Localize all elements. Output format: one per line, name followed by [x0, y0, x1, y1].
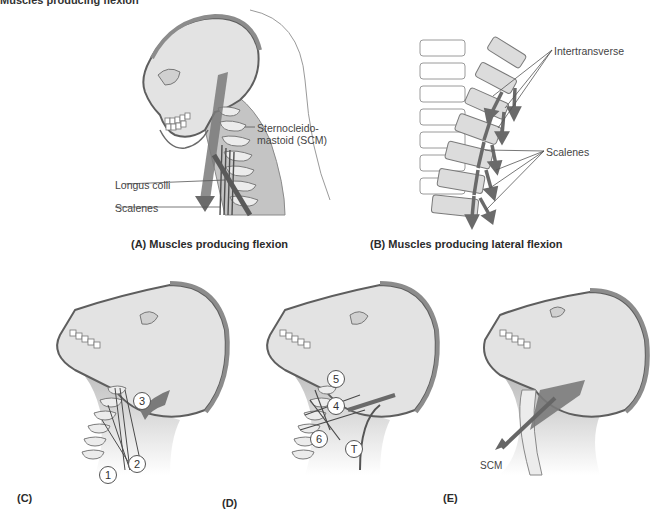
marker-5: 5	[327, 370, 345, 388]
label-scm-line2: mastoid (SCM)	[257, 134, 327, 146]
label-sternocleidomastoid: Sternocleido- mastoid (SCM)	[257, 122, 327, 146]
marker-2: 2	[128, 455, 146, 473]
marker-6: 6	[310, 430, 328, 448]
panel-b-illustration	[380, 0, 654, 250]
panel-e: SCM	[440, 270, 654, 480]
marker-t: T	[345, 440, 363, 458]
panel-c-illustration	[20, 270, 240, 480]
caption-c: (C)	[17, 492, 32, 504]
panel-e-illustration	[440, 270, 654, 480]
marker-4: 4	[327, 397, 345, 415]
caption-a: (A) Muscles producing flexion	[131, 238, 288, 250]
panel-b: Intertransverse Scalenes	[380, 0, 654, 250]
label-scm-line1: Sternocleido-	[257, 122, 327, 134]
caption-e: (E)	[443, 492, 458, 504]
marker-1: 1	[99, 466, 117, 484]
label-scalenes-a: Scalenes	[115, 202, 158, 214]
marker-3: 3	[133, 392, 151, 410]
label-scalenes-b: Scalenes	[546, 146, 589, 158]
label-longus-colli: Longus colli	[115, 179, 170, 191]
panel-d: 5 4 6 T	[230, 270, 450, 480]
panel-a: Sternocleido- mastoid (SCM) Longus colli…	[0, 0, 400, 250]
label-scm-e: SCM	[480, 460, 502, 472]
label-intertransverse: Intertransverse	[554, 45, 624, 57]
caption-b: (B) Muscles producing lateral flexion	[370, 238, 563, 250]
panel-a-illustration	[0, 0, 400, 250]
panel-c: 3 2 1	[20, 270, 240, 480]
caption-d: (D)	[222, 497, 237, 509]
